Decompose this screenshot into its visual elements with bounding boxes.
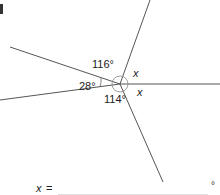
- answer-row: x = °: [36, 182, 216, 195]
- angle-label-x-upper: x: [132, 67, 139, 79]
- angle-label-28: 28°: [79, 80, 96, 92]
- degree-unit: °: [211, 180, 215, 191]
- answer-input[interactable]: [58, 182, 208, 195]
- angle-arc-28: [100, 78, 101, 87]
- angle-label-x-lower: x: [136, 86, 143, 98]
- answer-equals: =: [46, 182, 52, 194]
- answer-variable: x: [36, 182, 42, 194]
- ray-lower-right: [120, 84, 163, 182]
- angle-label-114: 114°: [104, 93, 126, 105]
- angle-label-116: 116°: [92, 58, 114, 70]
- ray-lower-left: [0, 84, 120, 100]
- angle-diagram: 116° 28° 114° x x: [0, 0, 220, 195]
